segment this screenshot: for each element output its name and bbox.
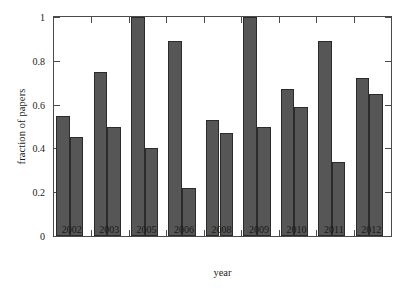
x-tick-mark-bottom [316,230,317,236]
x-tick-label: 2009 [249,224,269,235]
x-tick-mark-top [354,17,355,23]
bar-2011-series-1 [318,41,332,236]
y-tick-mark-right [385,61,391,62]
y-tick-mark [54,236,60,237]
y-tick-mark [54,61,60,62]
bar-2003-series-2 [107,127,121,237]
x-tick-label: 2003 [99,224,119,235]
bar-2003-series-1 [94,72,108,236]
bar-2009-series-2 [257,127,271,237]
bar-2005-series-1 [131,17,145,236]
y-tick-label: 0.4 [33,143,46,154]
bar-2010-series-1 [281,89,295,236]
y-tick-mark [54,17,60,18]
bar-2010-series-2 [294,107,308,236]
bar-2008-series-2 [220,133,234,236]
x-tick-mark-top [129,17,130,23]
bar-2002-series-2 [70,137,84,236]
y-tick-label: 1 [40,12,45,23]
x-tick-label: 2002 [62,224,82,235]
y-tick-mark-right [385,148,391,149]
x-tick-label: 2010 [286,224,306,235]
x-tick-mark-top [241,17,242,23]
x-tick-mark-bottom [241,230,242,236]
bar-2008-series-1 [206,120,220,236]
x-tick-label: 2008 [212,224,232,235]
plot-area: 00.20.40.60.81 [53,16,392,237]
x-tick-mark-bottom [279,230,280,236]
bar-2009-series-1 [243,17,257,236]
x-tick-mark-bottom [354,230,355,236]
bar-chart-figure: fraction of papers 00.20.40.60.81 200220… [0,0,404,290]
y-tick-mark-right [385,105,391,106]
x-tick-mark-bottom [129,230,130,236]
x-tick-label: 2011 [324,224,344,235]
x-tick-mark-top [166,17,167,23]
y-tick-label: 0.6 [33,99,46,110]
y-tick-mark-right [385,192,391,193]
x-axis-label: year [53,267,392,278]
x-tick-mark-bottom [91,230,92,236]
y-tick-mark-right [385,17,391,18]
x-tick-mark-top [316,17,317,23]
bar-2012-series-2 [369,94,383,236]
x-tick-mark-bottom [166,230,167,236]
x-tick-label: 2012 [361,224,381,235]
x-tick-label: 2005 [137,224,157,235]
x-tick-mark-top [204,17,205,23]
bar-2006-series-1 [168,41,182,236]
y-tick-mark [54,105,60,106]
x-tick-label: 2006 [174,224,194,235]
bar-2005-series-2 [145,148,159,236]
y-tick-mark-right [385,236,391,237]
y-axis-label: fraction of papers [14,16,30,237]
x-tick-mark-top [279,17,280,23]
x-tick-mark-top [91,17,92,23]
x-tick-mark-bottom [204,230,205,236]
y-tick-label: 0 [40,231,45,242]
bar-2012-series-1 [356,78,370,236]
y-tick-label: 0.2 [33,187,46,198]
bar-2002-series-1 [56,116,70,236]
y-tick-label: 0.8 [33,55,46,66]
